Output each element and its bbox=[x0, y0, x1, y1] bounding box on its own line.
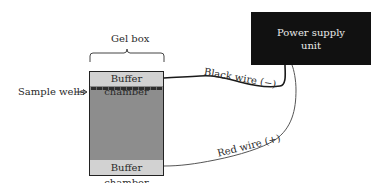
power-supply-label-line1: Power supply bbox=[251, 26, 371, 39]
bottom-buffer-chamber: Buffer chamber bbox=[90, 160, 163, 175]
gel-box-brace bbox=[90, 49, 164, 62]
top-buffer-chamber: Buffer chamber bbox=[90, 72, 163, 86]
power-supply-unit: Power supply unit bbox=[251, 12, 371, 65]
power-supply-label-line2: unit bbox=[251, 39, 371, 52]
sample-wells-label: Sample wells bbox=[18, 86, 85, 97]
gel-box: Buffer chamber Buffer chamber bbox=[89, 71, 164, 176]
sample-wells bbox=[91, 87, 162, 90]
gel-box-label: Gel box bbox=[111, 33, 149, 44]
